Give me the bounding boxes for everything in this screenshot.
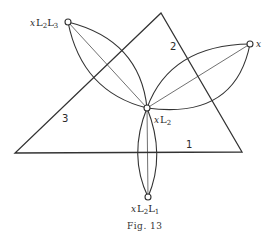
lens-top-left: [68, 22, 147, 108]
node-label-center: xL2: [154, 114, 171, 127]
side-label-3: 3: [62, 113, 68, 124]
fig-13-diagram: 3 2 1 xL2L3 x xL2 xL2L1 Fig. 13: [0, 0, 272, 235]
node-label-top-left: xL2L3: [30, 17, 58, 30]
node-center: [144, 105, 150, 111]
triangle: [15, 13, 242, 153]
node-label-bottom: xL2L1: [131, 203, 159, 216]
side-label-1: 1: [186, 139, 192, 150]
node-right: [247, 41, 253, 47]
figure-caption: Fig. 13: [127, 221, 163, 231]
node-label-right: x: [256, 39, 261, 49]
node-bottom: [145, 194, 151, 200]
node-top-left: [65, 19, 71, 25]
side-label-2: 2: [170, 41, 176, 52]
